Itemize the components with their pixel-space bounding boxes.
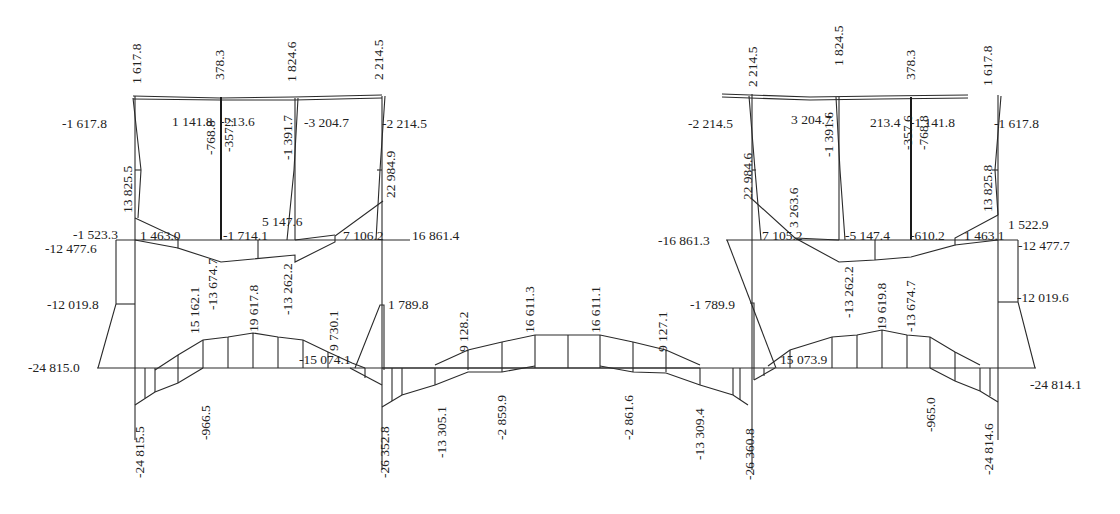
value-label: -2 861.6 [621,395,636,440]
value-label: 1 617.8 [129,43,144,84]
value-label: 15 073.9 [780,352,828,367]
value-label: -24 815.0 [28,360,80,375]
value-label: -2 214.5 [688,116,733,131]
value-label: -13 674.7 [903,280,918,332]
value-label: 13 825.8 [980,165,995,213]
value-label: 213.4 [870,115,901,130]
value-label: 3 204.7 [791,112,832,127]
value-label: -2 214.5 [382,116,427,131]
value-label: -610.2 [910,228,945,243]
value-label: 1 824.5 [831,25,846,66]
value-label: 378.3 [212,49,227,80]
value-label: 19 617.8 [246,285,261,333]
value-label: 1 824.6 [284,41,299,82]
value-label: -12 477.7 [1018,238,1070,253]
right-frame [722,94,1036,470]
value-label: 7 106.2 [343,228,384,243]
left-frame [97,95,700,470]
moment-diagram: -1 617.81 617.81 141.8378.3-213.61 824.6… [0,0,1120,514]
value-label: -24 814.1 [1030,377,1082,392]
value-label: -15 074.1 [299,352,351,367]
value-label: 15 162.1 [187,287,202,334]
value-label: -965.0 [923,397,938,432]
value-label: -1 523.3 [73,227,118,242]
value-label: 5 147.6 [262,214,303,229]
value-label: -13 262.2 [280,263,295,315]
value-label: -26 352.8 [377,426,392,478]
value-label: 3 263.6 [786,187,801,228]
value-label: -13 305.1 [434,406,449,458]
value-label: 1 522.9 [1008,217,1049,232]
value-label: 16 611.1 [588,286,603,333]
value-label: -12 019.6 [1017,290,1069,305]
value-label: 1 617.8 [980,45,995,86]
value-label: -16 861.3 [658,233,710,248]
value-label: 22 984.6 [740,153,755,201]
value-label: -5 147.4 [845,228,890,243]
value-label: -1 617.8 [994,116,1039,131]
value-label: 16 611.3 [522,286,537,333]
value-label: -357.7 [221,117,236,152]
value-label: -13 674.7 [205,258,220,310]
value-label: 2 214.5 [745,46,760,87]
value-label: 22 984.9 [383,151,398,199]
value-label: -12 019.8 [47,297,99,312]
value-label: 9 730.1 [326,311,341,352]
value-label: -1 617.8 [62,116,107,131]
value-label: -1 391.7 [280,115,295,160]
value-label: 9 128.2 [456,312,471,353]
value-label: -12 477.6 [45,241,97,256]
value-label: -24 814.6 [981,423,996,475]
value-label: -13 309.4 [692,408,707,460]
value-label: -966.5 [198,405,213,440]
value-label: -26 360.8 [742,428,757,480]
value-label: -13 262.2 [841,266,856,318]
value-label: 13 825.5 [120,166,135,214]
value-label: 9 127.1 [655,312,670,353]
value-label: 16 861.4 [412,228,460,243]
value-label: -24 815.5 [132,426,147,478]
value-label: -1 714.1 [223,228,268,243]
value-label: 7 105.2 [762,228,803,243]
value-labels: -1 617.81 617.81 141.8378.3-213.61 824.6… [28,25,1082,480]
middle-span [382,335,750,407]
value-label: -3 204.7 [304,115,349,130]
value-label: 1 789.8 [388,297,429,312]
value-label: -2 859.9 [494,395,509,440]
value-label: 1 463.0 [140,228,181,243]
value-label: 1 463.1 [964,228,1005,243]
value-label: 19 619.8 [874,283,889,331]
value-label: 378.3 [903,49,918,80]
value-label: -768.8 [203,120,218,155]
value-label: -1 789.9 [690,297,735,312]
value-label: -1 141.8 [910,115,955,130]
value-label: 2 214.5 [371,39,386,80]
